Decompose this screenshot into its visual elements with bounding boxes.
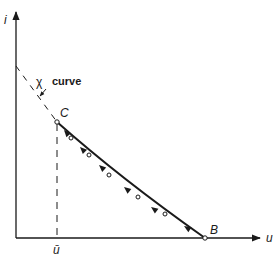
y-axis-label: i — [4, 13, 7, 27]
x-axis-label: u — [266, 231, 273, 245]
point-b-label: B — [210, 223, 218, 237]
chi-curve-word: curve — [52, 75, 81, 87]
direction-arrow-icon — [149, 205, 158, 214]
direction-arrow-icon — [122, 185, 131, 194]
curve-marker — [136, 195, 140, 199]
curve-marker — [87, 153, 91, 157]
point-c-marker — [55, 120, 59, 124]
chi-curve-symbol: χ — [36, 75, 43, 89]
curve-marker — [69, 136, 73, 140]
chi-curve-pointer-arrow — [40, 89, 46, 96]
diagram-canvas: i u χ curve ū C B — [0, 0, 278, 262]
point-b-marker — [203, 236, 207, 240]
curve-marker — [163, 212, 167, 216]
point-c-label: C — [60, 106, 69, 120]
trajectory-curve — [57, 122, 205, 238]
direction-arrow-icon — [97, 163, 106, 172]
u-bar-label: ū — [53, 243, 60, 257]
curve-marker — [107, 173, 111, 177]
